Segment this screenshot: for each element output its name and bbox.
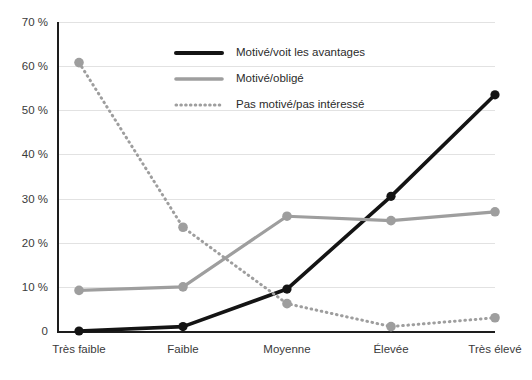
x-tick-label: Élevée — [373, 343, 408, 355]
series-path — [79, 212, 495, 291]
data-point-marker — [386, 192, 395, 201]
y-tick-label: 10 % — [22, 281, 48, 293]
y-tick-label: 40 % — [22, 148, 48, 160]
legend-label: Pas motivé/pas intéressé — [236, 98, 364, 110]
legend-item[interactable]: Motivé/voit les avantages — [176, 46, 365, 58]
data-point-marker — [282, 211, 292, 221]
data-point-marker — [74, 286, 84, 296]
x-tick-labels: Très faibleFaibleMoyenneÉlevéeTrès élevé — [52, 343, 521, 355]
data-point-marker — [490, 90, 499, 99]
data-point-marker — [386, 216, 396, 226]
chart-canvas: 010 %20 %30 %40 %50 %60 %70 % Très faibl… — [0, 0, 532, 380]
line-chart: 010 %20 %30 %40 %50 %60 %70 % Très faibl… — [0, 0, 532, 380]
y-tick-label: 20 % — [22, 237, 48, 249]
data-point-marker — [282, 299, 292, 309]
legend-label: Motivé/obligé — [236, 72, 304, 84]
data-point-marker — [178, 282, 188, 292]
data-point-marker — [178, 322, 187, 331]
legend-label: Motivé/voit les avantages — [236, 46, 365, 58]
series-line — [74, 207, 500, 295]
data-point-marker — [178, 222, 188, 232]
data-point-marker — [386, 322, 396, 332]
data-point-marker — [490, 313, 500, 323]
legend-item[interactable]: Motivé/obligé — [176, 72, 304, 84]
chart-legend: Motivé/voit les avantagesMotivé/obligéPa… — [176, 46, 365, 110]
x-tick-label: Très faible — [52, 343, 105, 355]
data-point-marker — [74, 58, 84, 68]
x-tick-label: Très élevé — [468, 343, 521, 355]
data-point-marker — [282, 284, 291, 293]
y-tick-label: 30 % — [22, 193, 48, 205]
y-tick-label: 70 % — [22, 16, 48, 28]
x-tick-label: Moyenne — [263, 343, 310, 355]
y-tick-label: 60 % — [22, 60, 48, 72]
y-tick-labels: 010 %20 %30 %40 %50 %60 %70 % — [22, 16, 48, 337]
x-tick-label: Faible — [167, 343, 198, 355]
y-tick-label: 50 % — [22, 104, 48, 116]
legend-item[interactable]: Pas motivé/pas intéressé — [176, 98, 364, 110]
gridlines — [57, 23, 495, 288]
y-tick-label: 0 — [42, 325, 48, 337]
data-point-marker — [490, 207, 500, 217]
data-point-marker — [74, 326, 83, 335]
